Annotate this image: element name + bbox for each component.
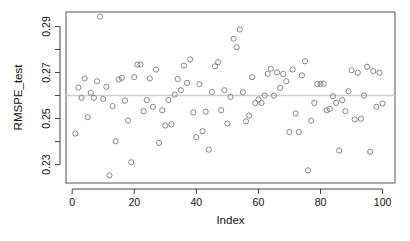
data-point: [346, 89, 351, 94]
data-point: [188, 57, 193, 62]
data-point: [231, 36, 236, 41]
data-point: [129, 160, 134, 165]
data-point: [178, 88, 183, 93]
data-point: [141, 109, 146, 114]
data-point: [119, 75, 124, 80]
data-point: [150, 104, 155, 109]
data-point: [107, 173, 112, 178]
data-point: [76, 85, 81, 90]
x-tick-label: 60: [253, 196, 265, 208]
data-point: [132, 75, 137, 80]
data-point: [209, 89, 214, 94]
data-point: [374, 104, 379, 109]
data-point: [250, 75, 255, 80]
data-point: [340, 98, 345, 103]
data-point: [184, 80, 189, 85]
data-point: [337, 148, 342, 153]
data-point: [222, 88, 227, 93]
data-point: [321, 81, 326, 86]
data-point: [352, 117, 357, 122]
data-point: [73, 131, 78, 136]
data-point: [219, 108, 224, 113]
data-point: [122, 98, 127, 103]
data-point: [113, 139, 118, 144]
data-point: [293, 111, 298, 116]
x-tick-label: 0: [69, 196, 75, 208]
data-point: [181, 63, 186, 68]
data-point: [88, 90, 93, 95]
data-point: [169, 122, 174, 127]
data-point: [371, 69, 376, 74]
data-point: [197, 82, 202, 87]
data-point: [166, 97, 171, 102]
data-point: [237, 27, 242, 32]
data-point: [234, 45, 239, 50]
y-tick-label: 0.23: [40, 154, 52, 175]
data-point: [324, 108, 329, 113]
data-point: [284, 79, 289, 84]
data-point: [343, 109, 348, 114]
data-point: [116, 77, 121, 82]
data-point: [349, 68, 354, 73]
data-point: [259, 100, 264, 105]
data-point: [104, 84, 109, 89]
scatter-chart: 020406080100 0.230.250.270.29 Index RMSP…: [0, 0, 410, 241]
y-tick-label: 0.29: [40, 16, 52, 37]
data-point: [144, 98, 149, 103]
data-point: [82, 76, 87, 81]
data-point: [265, 71, 270, 76]
data-point: [225, 121, 230, 126]
data-point: [358, 116, 363, 121]
data-point: [125, 118, 130, 123]
x-axis-title: Index: [216, 214, 244, 226]
x-tick-label: 100: [374, 196, 392, 208]
y-tick-label: 0.27: [40, 62, 52, 83]
y-tick-label: 0.25: [40, 108, 52, 129]
data-point: [309, 118, 314, 123]
data-point: [296, 130, 301, 135]
data-point: [302, 59, 307, 64]
data-point: [312, 100, 317, 105]
x-axis: 020406080100: [69, 189, 391, 208]
data-point: [287, 130, 292, 135]
data-point: [200, 129, 205, 134]
data-point: [101, 96, 106, 101]
data-point: [327, 106, 332, 111]
data-point: [253, 100, 258, 105]
data-point: [355, 70, 360, 75]
data-point: [256, 97, 261, 102]
data-point: [85, 115, 90, 120]
data-point: [380, 101, 385, 106]
data-point: [175, 76, 180, 81]
data-point: [368, 149, 373, 154]
data-point: [290, 67, 295, 72]
data-point: [215, 60, 220, 65]
data-point: [206, 147, 211, 152]
data-point: [153, 67, 158, 72]
data-point: [138, 62, 143, 67]
data-point: [247, 113, 252, 118]
data-point: [160, 108, 165, 113]
data-point: [110, 104, 115, 109]
data-point: [147, 76, 152, 81]
data-point: [278, 85, 283, 90]
data-point: [163, 123, 168, 128]
data-point: [203, 109, 208, 114]
data-point: [240, 90, 245, 95]
data-point: [268, 66, 273, 71]
data-point: [364, 64, 369, 69]
data-point: [299, 73, 304, 78]
data-point: [377, 70, 382, 75]
data-point: [281, 71, 286, 76]
data-point: [243, 119, 248, 124]
data-point: [191, 110, 196, 115]
data-point: [98, 14, 103, 19]
y-axis-title: RMSPE_test: [12, 64, 24, 131]
x-tick-label: 80: [315, 196, 327, 208]
data-point: [94, 79, 99, 84]
data-point: [333, 100, 338, 105]
data-point: [305, 168, 310, 173]
plot-frame: [66, 12, 395, 183]
data-point: [157, 140, 162, 145]
data-point: [172, 92, 177, 97]
